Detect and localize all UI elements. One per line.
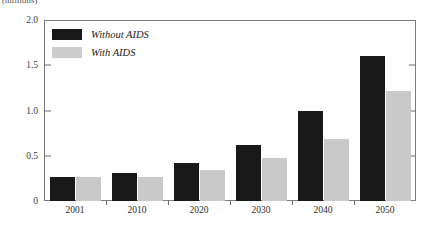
bar-chart: (millions) 00.51.01.52.0 200120102020203… [0,0,428,240]
x-axis-tick-label: 2010 [128,205,147,215]
bar-with-aids [386,91,411,201]
bar-with-aids [76,177,101,201]
legend: Without AIDS With AIDS [52,27,149,63]
y-axis-tick-label: 0.5 [6,151,38,161]
legend-label-without-aids: Without AIDS [91,29,149,40]
legend-swatch-without-aids-icon [52,29,82,40]
y-axis-tick-label: 0 [6,196,38,206]
x-axis-tick-label: 2020 [190,205,209,215]
bar-without-aids [174,163,199,201]
x-axis-tick-label: 2001 [66,205,85,215]
bar-with-aids [262,158,287,201]
bar-with-aids [324,139,349,201]
y-axis-tick-label: 1.0 [6,106,38,116]
legend-label-with-aids: With AIDS [91,47,135,58]
x-axis-tick-label: 2040 [314,205,333,215]
legend-item-with-aids: With AIDS [52,45,149,60]
x-axis-tick-mark [230,201,231,205]
bar-with-aids [138,177,163,201]
x-axis-tick-mark [354,201,355,205]
bar-without-aids [298,111,323,201]
legend-swatch-with-aids-icon [52,47,82,58]
x-axis-tick-label: 2030 [252,205,271,215]
bar-group [298,20,349,201]
bar-without-aids [112,173,137,201]
bar-with-aids [200,170,225,201]
bar-without-aids [50,177,75,201]
y-axis-tick-label: 2.0 [6,15,38,25]
bar-group [360,20,411,201]
x-axis-tick-mark [106,201,107,205]
legend-item-without-aids: Without AIDS [52,27,149,42]
x-axis-tick-mark [168,201,169,205]
bar-group [174,20,225,201]
x-axis-tick-label: 2050 [376,205,395,215]
x-axis-tick-mark [292,201,293,205]
y-axis-tick-label: 1.5 [6,60,38,70]
bar-without-aids [236,145,261,201]
bar-group [236,20,287,201]
bar-without-aids [360,56,385,201]
